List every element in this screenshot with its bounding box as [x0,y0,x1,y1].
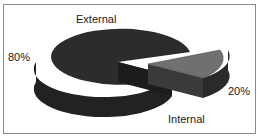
pie-chart [0,0,261,139]
label-external-value: 80% [8,51,30,63]
label-internal-name: Internal [168,113,205,125]
label-internal-value: 20% [228,85,250,97]
label-external-name: External [76,13,116,25]
